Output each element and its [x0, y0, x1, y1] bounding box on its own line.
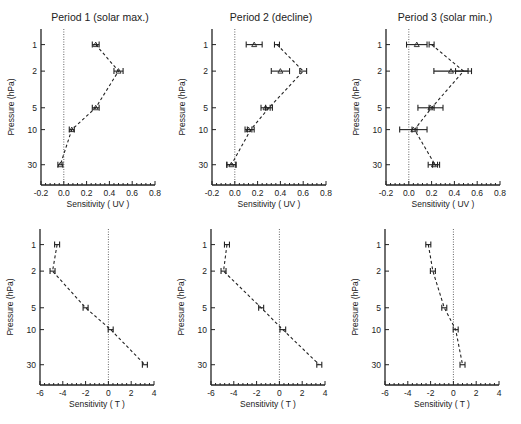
y-tick-label: 5 — [202, 303, 207, 313]
figure: -0.20.00.20.40.60.8Sensitivity ( UV )125… — [0, 0, 521, 424]
y-axis-label: Pressure (hPa) — [351, 78, 361, 135]
panel-2: -0.20.00.20.40.60.8Sensitivity ( UV )125… — [177, 11, 332, 209]
series-line — [415, 45, 464, 165]
x-tick-label: 0 — [451, 388, 456, 398]
x-tick-label: -0.2 — [205, 188, 220, 198]
x-tick-label: 0.8 — [320, 188, 332, 198]
x-tick-label: -4 — [59, 388, 67, 398]
y-tick-label: 1 — [31, 240, 36, 250]
y-tick-label: 10 — [372, 325, 382, 335]
y-tick-label: 5 — [377, 103, 382, 113]
x-tick-label: 0.4 — [448, 188, 460, 198]
x-tick-label: -2 — [427, 388, 435, 398]
y-axis-label: Pressure (hPa) — [350, 278, 360, 335]
y-tick-label: 1 — [376, 240, 381, 250]
x-tick-label: 0.2 — [81, 188, 93, 198]
x-tick-label: -4 — [404, 388, 412, 398]
x-axis-label: Sensitivity ( T ) — [69, 399, 125, 409]
y-tick-label: 10 — [27, 325, 37, 335]
panel-6: -6-4-2024Sensitivity ( T )1251030Pressur… — [350, 229, 502, 409]
x-tick-label: 0.8 — [149, 188, 161, 198]
x-tick-label: 0.2 — [426, 188, 438, 198]
x-axis-label: Sensitivity ( UV ) — [67, 199, 130, 209]
y-tick-label: 1 — [203, 40, 208, 50]
x-axis-label: Sensitivity ( T ) — [240, 399, 296, 409]
y-tick-label: 30 — [28, 160, 38, 170]
x-tick-label: 0.4 — [274, 188, 286, 198]
x-tick-label: -0.2 — [34, 188, 49, 198]
y-tick-label: 2 — [32, 66, 37, 76]
series-line — [428, 245, 462, 365]
x-tick-label: -6 — [381, 388, 389, 398]
panel-5: -6-4-2024Sensitivity ( T )1251030Pressur… — [176, 229, 328, 409]
y-tick-label: 2 — [31, 266, 36, 276]
panel-4: -6-4-2024Sensitivity ( T )1251030Pressur… — [5, 229, 157, 409]
y-tick-label: 10 — [198, 325, 208, 335]
x-tick-label: 2 — [300, 388, 305, 398]
x-tick-label: 0.8 — [494, 188, 506, 198]
y-tick-label: 30 — [27, 360, 37, 370]
y-tick-label: 30 — [372, 360, 382, 370]
x-tick-label: -2 — [253, 388, 261, 398]
y-axis-label: Pressure (hPa) — [5, 278, 15, 335]
x-tick-label: 0 — [106, 388, 111, 398]
panel-title: Period 2 (decline) — [230, 11, 312, 23]
y-tick-label: 10 — [199, 125, 209, 135]
y-tick-label: 2 — [376, 266, 381, 276]
series-line — [53, 245, 145, 365]
x-tick-label: -0.2 — [379, 188, 394, 198]
panel-title: Period 3 (solar min.) — [398, 11, 493, 23]
x-axis-label: Sensitivity ( T ) — [414, 399, 470, 409]
y-tick-label: 2 — [202, 266, 207, 276]
y-tick-label: 30 — [373, 160, 383, 170]
y-tick-label: 5 — [203, 103, 208, 113]
y-tick-label: 5 — [32, 103, 37, 113]
series-line — [60, 45, 118, 165]
x-tick-label: 4 — [152, 388, 157, 398]
y-tick-label: 10 — [373, 125, 383, 135]
y-tick-label: 30 — [198, 360, 208, 370]
y-axis-label: Pressure (hPa) — [6, 78, 16, 135]
y-tick-label: 2 — [203, 66, 208, 76]
x-tick-label: -6 — [36, 388, 44, 398]
y-tick-label: 5 — [376, 303, 381, 313]
x-tick-label: 0 — [277, 388, 282, 398]
series-line — [224, 245, 320, 365]
x-tick-label: 0.6 — [126, 188, 138, 198]
x-tick-label: 4 — [323, 388, 328, 398]
x-tick-label: 0.0 — [403, 188, 415, 198]
x-tick-label: -6 — [207, 388, 215, 398]
y-axis-label: Pressure (hPa) — [177, 78, 187, 135]
x-axis-label: Sensitivity ( UV ) — [412, 199, 475, 209]
y-tick-label: 30 — [199, 160, 209, 170]
x-tick-label: 0.2 — [252, 188, 264, 198]
y-tick-label: 1 — [32, 40, 37, 50]
y-tick-label: 1 — [202, 240, 207, 250]
y-tick-label: 1 — [377, 40, 382, 50]
panel-title: Period 1 (solar max.) — [51, 11, 148, 23]
y-tick-label: 2 — [377, 66, 382, 76]
y-tick-label: 10 — [28, 125, 38, 135]
panel-3: -0.20.00.20.40.60.8Sensitivity ( UV )125… — [351, 11, 506, 209]
x-axis-label: Sensitivity ( UV ) — [238, 199, 301, 209]
x-tick-label: 0.0 — [229, 188, 241, 198]
y-axis-label: Pressure (hPa) — [176, 278, 186, 335]
x-tick-label: 0.4 — [103, 188, 115, 198]
x-tick-label: -2 — [82, 388, 90, 398]
x-tick-label: 4 — [497, 388, 502, 398]
x-tick-label: 0.6 — [471, 188, 483, 198]
x-tick-label: 2 — [129, 388, 134, 398]
x-tick-label: 0.6 — [297, 188, 309, 198]
x-tick-label: -4 — [230, 388, 238, 398]
x-tick-label: 0.0 — [58, 188, 70, 198]
series-line — [231, 45, 303, 165]
panel-1: -0.20.00.20.40.60.8Sensitivity ( UV )125… — [6, 11, 161, 209]
x-tick-label: 2 — [474, 388, 479, 398]
y-tick-label: 5 — [31, 303, 36, 313]
